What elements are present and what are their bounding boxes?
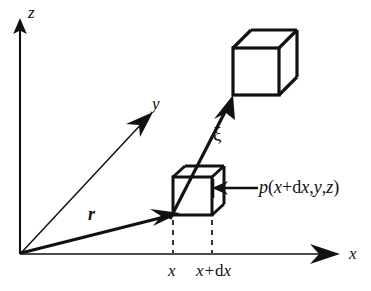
differential-element-cube: [173, 166, 224, 215]
pressure-arrow: [212, 179, 258, 198]
diagram-canvas: [0, 0, 371, 291]
tick-label-x-plus-dx-prefix: x+: [196, 261, 215, 280]
projection-dashed-lines: [173, 220, 212, 253]
tick-label-x-plus-dx-suffix: x: [224, 261, 232, 280]
position-vector-r: [21, 209, 180, 253]
tick-label-x-plus-dx: x+dx: [196, 262, 231, 279]
pressure-label-dx: x: [301, 177, 309, 197]
pressure-label-x: x: [274, 177, 282, 197]
tick-label-x: x: [168, 262, 176, 279]
pressure-label-y: y: [314, 177, 322, 197]
pressure-label-plus: +: [282, 177, 292, 197]
y-axis-label: y: [152, 95, 160, 112]
tick-label-x-plus-dx-d: d: [215, 261, 224, 280]
x-axis-label: x: [349, 245, 357, 262]
physics-diagram-figure: z y x r ξ x x+dx p(x+dx,y,z): [0, 0, 371, 291]
pressure-label-d: d: [292, 177, 301, 197]
z-axis: [13, 18, 27, 254]
displaced-element-cube: [233, 30, 297, 95]
pressure-label: p(x+dx,y,z): [259, 178, 339, 196]
y-axis: [21, 112, 153, 253]
position-vector-label: r: [88, 205, 95, 223]
pressure-label-p: p: [259, 177, 268, 197]
pressure-label-close: ): [333, 177, 339, 197]
displacement-vector-label: ξ: [213, 124, 221, 143]
x-axis: [20, 244, 340, 264]
y-axis-arrowhead: [126, 112, 153, 137]
z-axis-label: z: [28, 4, 35, 21]
